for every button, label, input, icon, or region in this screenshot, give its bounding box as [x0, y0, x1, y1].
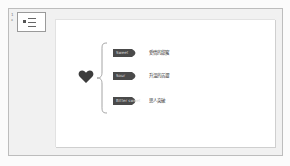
slide-thumbnail[interactable] [17, 12, 46, 32]
item-description[interactable]: 思人突破 [149, 97, 165, 104]
slide-number: 1 [11, 12, 14, 17]
thumbnail-line [28, 18, 36, 19]
heart-icon[interactable] [78, 69, 94, 85]
tag-sour[interactable]: Sour [113, 72, 139, 80]
slide-transition-marker: * [11, 18, 13, 23]
thumbnail-line [28, 26, 36, 27]
tag-label: Sour [116, 73, 125, 79]
tag-label: Bitter sweet [116, 98, 140, 104]
thumbnail-line [28, 22, 36, 23]
tag-bitter-sweet[interactable]: Bitter sweet [113, 97, 139, 105]
item-description[interactable]: 愛情的甜蜜 [149, 49, 169, 56]
tag-sweet[interactable]: Sweet [113, 49, 139, 57]
curly-brace-shape[interactable] [96, 42, 108, 114]
tag-label: Sweet [116, 50, 128, 56]
thumbnail-heart-icon [23, 20, 26, 23]
item-description[interactable]: 升溫的苦澀 [149, 72, 169, 79]
